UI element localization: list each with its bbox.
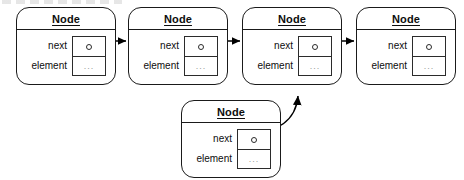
node-2-element-box[interactable]: ... (184, 56, 218, 76)
diagram-canvas: Node next element ... Node next (0, 0, 464, 180)
node-2-next-box[interactable] (184, 36, 218, 56)
node-4-body: next element ... (357, 30, 455, 85)
node-3[interactable]: Node next element ... (242, 7, 342, 85)
node-1-body: next element ... (17, 30, 115, 85)
node-2-next-row: next (129, 36, 227, 56)
circle-pointer-icon (426, 44, 432, 50)
node-3-next-row: next (243, 36, 341, 56)
node-3-element-value: ... (299, 57, 331, 75)
node-4-next-row: next (357, 36, 455, 56)
node-4-next-box[interactable] (412, 36, 446, 56)
node-2[interactable]: Node next element ... (128, 7, 228, 85)
node-5-element-label: element (182, 154, 237, 164)
node-3-element-row: element ... (243, 56, 341, 76)
node-5-title-bar: Node (182, 101, 280, 123)
node-4-next-label: next (357, 41, 412, 51)
node-3-next-label: next (243, 41, 298, 51)
node-1-title-bar: Node (17, 8, 115, 30)
node-5-body: next element ... (182, 123, 280, 178)
node-1-next-box[interactable] (72, 36, 106, 56)
node-2-element-value: ... (185, 57, 217, 75)
node-2-element-label: element (129, 61, 184, 71)
node-3-element-box[interactable]: ... (298, 56, 332, 76)
node-1-title: Node (52, 13, 80, 25)
node-1[interactable]: Node next element ... (16, 7, 116, 85)
node-1-next-label: next (17, 41, 72, 51)
node-5-element-row: element ... (182, 149, 280, 169)
node-3-body: next element ... (243, 30, 341, 85)
node-4-element-value: ... (413, 57, 445, 75)
node-5-element-value: ... (238, 150, 270, 168)
node-4-element-row: element ... (357, 56, 455, 76)
node-3-title-bar: Node (243, 8, 341, 30)
node-5[interactable]: Node next element ... (181, 100, 281, 178)
node-5-next-row: next (182, 129, 280, 149)
node-3-next-box[interactable] (298, 36, 332, 56)
node-1-next-row: next (17, 36, 115, 56)
node-2-title: Node (164, 13, 192, 25)
circle-pointer-icon (86, 44, 92, 50)
node-2-title-bar: Node (129, 8, 227, 30)
node-1-element-value: ... (73, 57, 105, 75)
node-5-next-label: next (182, 134, 237, 144)
node-1-element-label: element (17, 61, 72, 71)
node-5-element-box[interactable]: ... (237, 149, 271, 169)
node-4[interactable]: Node next element ... (356, 7, 456, 85)
node-4-title-bar: Node (357, 8, 455, 30)
circle-pointer-icon (251, 137, 257, 143)
circle-pointer-icon (312, 44, 318, 50)
node-2-element-row: element ... (129, 56, 227, 76)
node-2-body: next element ... (129, 30, 227, 85)
node-5-next-box[interactable] (237, 129, 271, 149)
circle-pointer-icon (198, 44, 204, 50)
node-4-element-label: element (357, 61, 412, 71)
node-5-title: Node (217, 106, 245, 118)
node-3-title: Node (278, 13, 306, 25)
node-4-element-box[interactable]: ... (412, 56, 446, 76)
node-2-next-label: next (129, 41, 184, 51)
node-1-element-row: element ... (17, 56, 115, 76)
node-4-title: Node (392, 13, 420, 25)
node-1-element-box[interactable]: ... (72, 56, 106, 76)
node-3-element-label: element (243, 61, 298, 71)
